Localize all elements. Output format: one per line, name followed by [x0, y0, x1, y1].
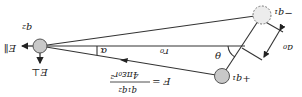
force-arrowhead: [120, 58, 128, 63]
label-theta: θ: [215, 50, 221, 61]
line-q2-to-minus-q1: [40, 15, 262, 46]
force-formula: F = q₁q₂ 4πε₀r²: [110, 70, 172, 96]
label-r0: r₀: [160, 47, 169, 58]
label-a0: a₀: [283, 43, 293, 54]
a0-tick-bottom: [242, 48, 262, 60]
force-lhs: F =: [152, 76, 172, 87]
label-alpha: α: [100, 46, 107, 57]
charge-minus-q1: [253, 6, 271, 24]
force-denominator: 4πε₀r²: [110, 70, 139, 80]
geometry-lines: [40, 15, 283, 76]
label-e-perp: E⊥: [31, 67, 49, 78]
force-numerator: q₁q₂: [118, 86, 137, 96]
label-minus-q1: −q₁: [274, 8, 293, 19]
label-plus-q1: +q₁: [232, 74, 251, 85]
label-e-par: E∥: [4, 43, 17, 54]
theta-arc: [228, 46, 235, 57]
charge-plus-q1: [215, 69, 230, 84]
label-q2: q₂: [22, 23, 32, 34]
charge-q2: [33, 39, 47, 53]
dipole-diagram: q₂ E∥ E⊥ α r₀ θ +q₁ −q₁ a₀ F = q₁q₂ 4πε₀…: [0, 0, 302, 97]
a0-dimension-arrow: [264, 30, 280, 57]
